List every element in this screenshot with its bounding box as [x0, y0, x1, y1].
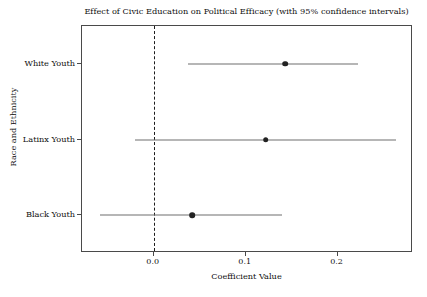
x-axis-tick-label: 0.2	[330, 257, 343, 266]
y-axis-tick-label: Latinx Youth	[23, 134, 75, 144]
ci-row	[82, 132, 411, 148]
plot-area	[81, 25, 412, 252]
x-axis-label: Coefficient Value	[81, 271, 412, 281]
estimate-point	[190, 212, 196, 218]
estimate-point	[263, 137, 269, 143]
x-axis-tick	[245, 252, 246, 256]
y-axis-tick	[77, 214, 81, 215]
x-axis-tick	[153, 252, 154, 256]
y-axis-tick-label: Black Youth	[26, 209, 75, 219]
ci-row	[82, 207, 411, 223]
plot-inner	[82, 26, 411, 251]
figure-container: Effect of Civic Education on Political E…	[0, 0, 427, 297]
x-axis-tick-label: 0.1	[238, 257, 251, 266]
chart-title: Effect of Civic Education on Political E…	[81, 6, 412, 17]
ci-row	[82, 56, 411, 72]
y-axis-tick-label: White Youth	[24, 58, 75, 68]
y-axis-tick	[77, 63, 81, 64]
x-axis-tick-label: 0.0	[146, 257, 159, 266]
confidence-interval-line	[188, 63, 358, 64]
estimate-point	[282, 61, 288, 67]
x-axis-tick	[337, 252, 338, 256]
y-axis-tick	[77, 139, 81, 140]
y-axis-label: Race and Ethnicity	[8, 67, 18, 187]
